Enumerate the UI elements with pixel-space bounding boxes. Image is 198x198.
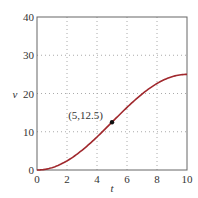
x-tick-label: 10 bbox=[182, 173, 194, 185]
x-tick-label: 0 bbox=[34, 173, 40, 185]
x-axis-label: t bbox=[110, 182, 114, 194]
chart: (5,12.5) 0246810 010203040 t v bbox=[0, 0, 198, 198]
y-tick-label: 20 bbox=[23, 88, 35, 100]
plot-frame bbox=[37, 17, 187, 170]
y-tick-label: 0 bbox=[29, 164, 35, 176]
y-tick-labels: 010203040 bbox=[23, 11, 35, 176]
y-tick-label: 40 bbox=[23, 11, 35, 23]
point-marker bbox=[110, 120, 114, 124]
y-tick-label: 10 bbox=[23, 126, 35, 138]
grid-lines bbox=[37, 17, 187, 170]
point-annotation: (5,12.5) bbox=[68, 109, 103, 122]
x-tick-label: 8 bbox=[154, 173, 160, 185]
x-tick-label: 6 bbox=[124, 173, 130, 185]
y-axis-label: v bbox=[13, 88, 18, 100]
y-tick-label: 30 bbox=[23, 49, 35, 61]
x-tick-labels: 0246810 bbox=[34, 173, 193, 185]
x-tick-label: 4 bbox=[94, 173, 100, 185]
x-tick-label: 2 bbox=[64, 173, 70, 185]
